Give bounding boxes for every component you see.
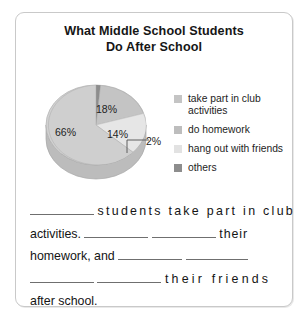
legend-label: hang out with friends [188, 143, 283, 155]
worksheet-card: What Middle School Students Do After Sch… [15, 12, 293, 307]
page-title: What Middle School Students Do After Sch… [16, 23, 292, 55]
exercise-line-3-text-a: homework, and [30, 249, 115, 263]
legend-swatch-icon [174, 126, 182, 134]
fill-in-exercise: students take part in club activities. t… [30, 200, 282, 313]
title-line-1: What Middle School Students [16, 23, 292, 39]
legend-label: others [188, 162, 217, 174]
legend-item-others: others [174, 162, 294, 174]
pie-label-homework: 66% [55, 126, 76, 138]
exercise-line-1-text: students take part in club [97, 204, 295, 218]
answer-blank[interactable] [30, 214, 94, 215]
legend-item-hang-out: hang out with friends [174, 143, 294, 155]
title-line-2: Do After School [16, 39, 292, 55]
answer-blank[interactable] [118, 259, 182, 260]
legend-swatch-icon [174, 145, 182, 153]
exercise-line-2-text-a: activities. [30, 227, 81, 241]
answer-blank[interactable] [152, 237, 216, 238]
pie-label-club-activities: 18% [96, 103, 117, 115]
exercise-line-5-text: after school. [30, 294, 98, 308]
pie-label-others: 2% [146, 135, 161, 147]
exercise-line-4: their friends [30, 268, 282, 291]
exercise-line-2-text-b: their [219, 227, 248, 241]
legend-swatch-icon [174, 95, 182, 103]
legend-item-homework: do homework [174, 124, 294, 136]
exercise-line-3: homework, and [30, 245, 282, 268]
pie-graphic: 66% 18% 14% 2% [39, 73, 153, 185]
legend-label: take part in club activities [188, 93, 294, 117]
exercise-line-4-text: their friends [165, 272, 271, 286]
chart-legend: take part in club activities do homework… [174, 93, 294, 181]
answer-blank[interactable] [84, 237, 148, 238]
pie-chart: 66% 18% 14% 2% take part in club activit… [16, 59, 294, 192]
answer-blank[interactable] [186, 259, 248, 260]
exercise-line-5: after school. [30, 290, 282, 313]
exercise-line-2: activities. their [30, 223, 282, 246]
answer-blank[interactable] [30, 282, 94, 283]
legend-swatch-icon [174, 164, 182, 172]
exercise-line-1: students take part in club [30, 200, 282, 223]
legend-item-club-activities: take part in club activities [174, 93, 294, 117]
legend-label: do homework [188, 124, 250, 136]
answer-blank[interactable] [97, 282, 161, 283]
